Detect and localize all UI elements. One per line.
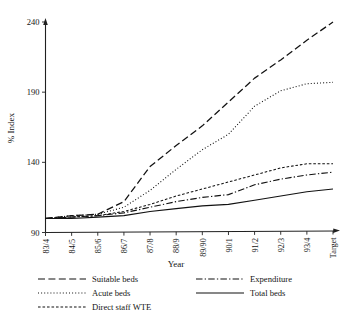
legend-label-total-beds[interactable]: Total beds bbox=[250, 288, 286, 298]
x-tick-label: 89/90 bbox=[199, 238, 208, 257]
series-line-expenditure bbox=[46, 172, 334, 218]
x-tick-label: 87/8 bbox=[146, 238, 155, 253]
y-tick-label: 140 bbox=[27, 157, 40, 167]
x-tick-label: 88/9 bbox=[172, 238, 181, 253]
y-tick-group: 90140190240 bbox=[27, 17, 46, 238]
legend-label-expenditure[interactable]: Expenditure bbox=[250, 274, 292, 284]
series-line-total-beds bbox=[46, 189, 334, 218]
chart-legend: Suitable bedsAcute bedsDirect staff WTEE… bbox=[38, 274, 292, 312]
x-axis-arrow-icon bbox=[333, 228, 340, 233]
x-tick-label: 92/3 bbox=[277, 238, 286, 253]
legend-label-acute-beds[interactable]: Acute beds bbox=[92, 288, 131, 298]
y-axis-arrow-icon bbox=[43, 18, 48, 25]
x-tick-label: 86/7 bbox=[120, 239, 129, 254]
legend-label-direct-staff-wte[interactable]: Direct staff WTE bbox=[92, 302, 151, 312]
x-tick-label: 90/1 bbox=[225, 238, 234, 253]
x-tick-label: 91/2 bbox=[251, 238, 260, 253]
y-tick-label: 240 bbox=[27, 17, 40, 27]
y-axis bbox=[43, 18, 48, 233]
x-tick-label: 83/4 bbox=[42, 239, 51, 254]
y-tick-label: 190 bbox=[27, 87, 40, 97]
chart-container: 90140190240 83/484/585/686/787/888/989/9… bbox=[0, 0, 346, 313]
series-line-suitable-beds bbox=[46, 22, 334, 218]
x-tick-label: 93/4 bbox=[303, 238, 312, 253]
x-axis-title: Year bbox=[168, 259, 185, 269]
legend-label-suitable-beds[interactable]: Suitable beds bbox=[92, 274, 139, 284]
series-line-direct-staff-wte bbox=[46, 164, 334, 219]
x-tick-group: 83/484/585/686/787/888/989/9090/191/292/… bbox=[42, 231, 339, 258]
y-tick-label: 90 bbox=[31, 228, 40, 238]
x-axis-line bbox=[46, 231, 337, 233]
x-tick-label: 84/5 bbox=[68, 239, 77, 254]
x-tick-label: Target bbox=[329, 237, 338, 258]
x-axis bbox=[46, 228, 341, 233]
line-chart: 90140190240 83/484/585/686/787/888/989/9… bbox=[0, 0, 346, 313]
series-line-acute-beds bbox=[46, 82, 334, 218]
y-axis-title: % Index bbox=[6, 112, 16, 143]
series-group bbox=[46, 22, 334, 218]
x-tick-label: 85/6 bbox=[94, 239, 103, 254]
